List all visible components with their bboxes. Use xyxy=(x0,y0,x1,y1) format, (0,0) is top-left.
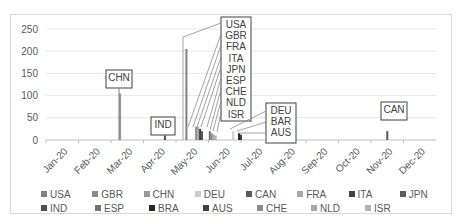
bar-ind xyxy=(164,136,166,140)
plot-area: 050100150200250Jan-20Feb-20Mar-20Apr-20M… xyxy=(11,15,451,185)
legend-label: CAN xyxy=(255,189,276,200)
legend-item-jpn: JPN xyxy=(400,187,451,201)
legend-item-ind: IND xyxy=(41,201,95,215)
legend-label: ISR xyxy=(374,203,391,214)
legend-swatch xyxy=(349,191,355,197)
bar-nld xyxy=(213,135,215,140)
x-tick-label: Oct-20 xyxy=(333,145,362,174)
bar-can xyxy=(386,131,388,140)
annotation-label: ISR xyxy=(228,109,245,120)
legend-swatch xyxy=(246,191,252,197)
legend-item-chn: CHN xyxy=(144,187,195,201)
x-tick-label: Aug-20 xyxy=(267,145,298,176)
x-tick-label: Apr-20 xyxy=(138,145,167,174)
legend-label: AUS xyxy=(212,203,233,214)
annotation-label: USA xyxy=(226,19,247,30)
y-tick-label: 0 xyxy=(32,135,38,146)
annotation-label: ESP xyxy=(226,75,246,86)
bar-isr xyxy=(215,136,217,140)
legend-swatch xyxy=(311,205,317,211)
annotation-label: CHN xyxy=(108,72,130,83)
legend-label: BRA xyxy=(158,203,179,214)
leader-line xyxy=(193,45,221,127)
bar-fra xyxy=(197,127,199,140)
legend-swatch xyxy=(365,205,371,211)
legend-swatch xyxy=(195,191,201,197)
legend-label: GBR xyxy=(101,189,123,200)
legend-swatch xyxy=(41,191,47,197)
legend-item-gbr: GBR xyxy=(92,187,143,201)
bar-deu xyxy=(232,131,234,140)
legend-label: ITA xyxy=(358,189,373,200)
legend-item-nld: NLD xyxy=(311,201,365,215)
chart-area: 050100150200250Jan-20Feb-20Mar-20Apr-20M… xyxy=(10,14,452,214)
legend-swatch xyxy=(92,191,98,197)
y-tick-label: 250 xyxy=(21,24,38,35)
x-tick-label: Feb-20 xyxy=(72,145,102,175)
annotation-label: BAR xyxy=(271,116,292,127)
leader-line xyxy=(183,23,221,37)
bar-jpn xyxy=(201,131,203,140)
legend-item-can: CAN xyxy=(246,187,297,201)
legend-swatch xyxy=(95,205,101,211)
y-tick-label: 150 xyxy=(21,68,38,79)
annotation-label: NLD xyxy=(226,97,246,108)
legend-item-ita: ITA xyxy=(349,187,400,201)
legend-item-bra: BRA xyxy=(149,201,203,215)
legend-item-fra: FRA xyxy=(297,187,348,201)
annotation-label: CHE xyxy=(225,86,246,97)
legend-label: CHE xyxy=(266,203,287,214)
legend-swatch xyxy=(400,191,406,197)
annotation-label: CAN xyxy=(383,104,404,115)
legend-swatch xyxy=(144,191,150,197)
annotation-label: FRA xyxy=(226,41,246,52)
legend-swatch xyxy=(149,205,155,211)
x-tick-label: May-20 xyxy=(168,145,200,177)
bar-bra xyxy=(238,133,240,140)
x-tick-label: Jun-20 xyxy=(203,145,233,175)
x-tick-label: Jul-20 xyxy=(238,145,265,172)
legend-label: IND xyxy=(50,203,67,214)
annotation-label: IND xyxy=(154,119,171,130)
bar-che xyxy=(211,133,213,140)
y-tick-label: 200 xyxy=(21,46,38,57)
legend-item-usa: USA xyxy=(41,187,92,201)
legend-swatch xyxy=(297,191,303,197)
legend-label: USA xyxy=(50,189,71,200)
bar-gbr xyxy=(195,127,197,140)
legend-swatch xyxy=(203,205,209,211)
legend-label: CHN xyxy=(153,189,175,200)
annotation-label: AUS xyxy=(271,127,292,138)
legend-item-aus: AUS xyxy=(203,201,257,215)
x-tick-label: Mar-20 xyxy=(104,145,134,175)
annotation-label: JPN xyxy=(227,64,246,75)
legend-label: FRA xyxy=(306,189,326,200)
leader-line xyxy=(188,34,221,127)
legend-item-che: CHE xyxy=(257,201,311,215)
legend-label: ESP xyxy=(104,203,124,214)
legend-label: NLD xyxy=(320,203,340,214)
x-tick-label: Jan-20 xyxy=(40,145,70,175)
legend-item-deu: DEU xyxy=(195,187,246,201)
bar-usa xyxy=(185,49,187,140)
legend-swatch xyxy=(257,205,263,211)
x-tick-label: Sep-20 xyxy=(299,145,330,176)
legend-item-isr: ISR xyxy=(365,201,419,215)
annotation-label: ITA xyxy=(229,53,244,64)
annotation-label: DEU xyxy=(270,105,291,116)
bar-esp xyxy=(209,131,211,140)
bar-ita xyxy=(199,129,201,140)
x-tick-label: Dec-20 xyxy=(397,145,428,176)
legend-label: DEU xyxy=(204,189,225,200)
y-tick-label: 50 xyxy=(27,112,39,123)
x-tick-label: Nov-20 xyxy=(364,145,395,176)
legend: USAGBRCHNDEUCANFRAITAJPN INDESPBRAAUSCHE… xyxy=(41,187,451,215)
legend-swatch xyxy=(41,205,47,211)
annotation-label: GBR xyxy=(225,30,247,41)
bar-aus xyxy=(240,135,242,140)
y-tick-label: 100 xyxy=(21,90,38,101)
legend-label: JPN xyxy=(409,189,428,200)
legend-item-esp: ESP xyxy=(95,201,149,215)
